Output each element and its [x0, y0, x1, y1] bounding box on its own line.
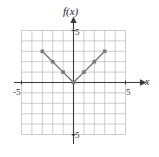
- function-label: f(x): [63, 6, 78, 17]
- x-axis-tick-label-positive: 5: [126, 88, 131, 97]
- x-axis-tick-label-negative: -5: [13, 88, 21, 97]
- y-axis-arrowhead: [70, 17, 76, 24]
- x-axis-label: x: [145, 77, 149, 87]
- y-axis-tick-label-negative: -5: [72, 131, 80, 140]
- graph-figure: f(x) x 5 -5 -5 5: [0, 0, 159, 157]
- y-axis-tick-label-positive: 5: [75, 28, 80, 37]
